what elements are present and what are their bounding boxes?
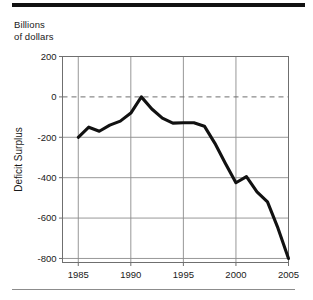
x-tick-label: 2005: [278, 269, 299, 280]
y-tick-label: -800: [37, 253, 56, 264]
x-tick-label: 1985: [68, 269, 89, 280]
plot-frame: [63, 57, 289, 263]
x-tick-label: 1995: [173, 269, 194, 280]
x-tick-label: 2000: [225, 269, 246, 280]
y-tick-label: -400: [37, 172, 56, 183]
y-tick-label: 0: [51, 91, 56, 102]
y-tick-label: -200: [37, 132, 56, 143]
figure-container: Billions of dollars 2000-200-400-600-800…: [0, 0, 313, 300]
x-tick-label: 1990: [120, 269, 141, 280]
line-chart: 2000-200-400-600-80019851990199520002005…: [0, 0, 313, 300]
y-tick-label: 200: [41, 51, 57, 62]
y-tick-label: -600: [37, 212, 56, 223]
bottom-rule: [12, 289, 295, 290]
y-axis-title: Deficit Surplus: [13, 127, 24, 191]
